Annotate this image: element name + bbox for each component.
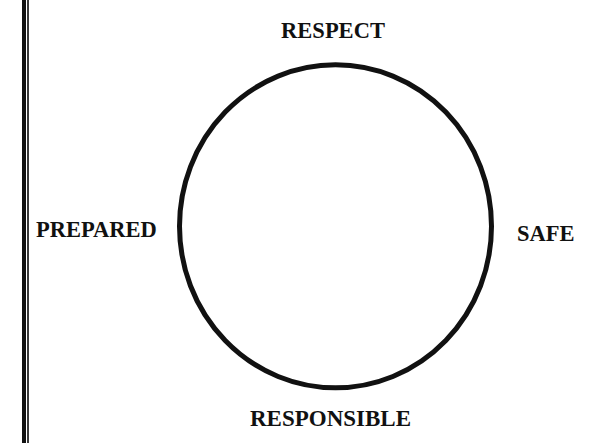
label-respect: RESPECT bbox=[280, 20, 386, 43]
label-safe: SAFE bbox=[517, 223, 575, 246]
cycle-circle bbox=[180, 65, 492, 388]
label-responsible: RESPONSIBLE bbox=[248, 407, 413, 430]
label-prepared: PREPARED bbox=[36, 219, 157, 242]
